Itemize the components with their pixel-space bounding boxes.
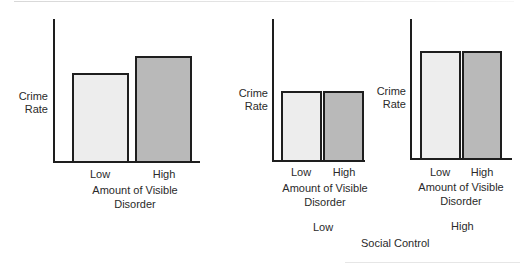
x-title-line2: Disorder (80, 197, 190, 211)
y-label-line2: Rate (8, 103, 48, 116)
bar-low (420, 51, 461, 158)
bottom-rule (345, 262, 520, 263)
y-axis-label: Crime Rate (228, 87, 268, 113)
y-label-line1: Crime (366, 85, 406, 98)
y-axis (272, 19, 274, 162)
x-axis (53, 161, 200, 163)
x-axis (410, 158, 512, 160)
y-label-line1: Crime (228, 87, 268, 100)
x-title-line1: Amount of Visible (270, 181, 380, 195)
bar-high (135, 56, 192, 161)
tick-low: Low (421, 166, 459, 179)
tick-high: High (325, 166, 363, 179)
y-axis (410, 19, 412, 160)
bar-low (72, 73, 129, 161)
tick-high: High (144, 168, 184, 181)
x-title-line1: Amount of Visible (80, 183, 190, 197)
bar-low (281, 91, 322, 160)
group-label-high: High (451, 220, 474, 233)
y-label-line1: Crime (8, 90, 48, 103)
tick-high: High (463, 166, 501, 179)
x-title-line2: Disorder (270, 195, 380, 209)
y-axis-label: Crime Rate (366, 85, 406, 111)
x-title-line2: Disorder (405, 194, 517, 208)
x-title-line1: Amount of Visible (405, 180, 517, 194)
bar-high (462, 51, 502, 158)
x-axis-title: Amount of Visible Disorder (80, 183, 190, 211)
group-label-low: Low (313, 221, 333, 234)
x-axis (272, 160, 365, 162)
bar-high (323, 91, 364, 160)
y-axis (53, 19, 55, 163)
y-axis-label: Crime Rate (8, 90, 48, 116)
group-title-social-control: Social Control (361, 237, 429, 250)
top-rule (14, 1, 514, 2)
y-label-line2: Rate (366, 98, 406, 111)
tick-low: Low (80, 168, 120, 181)
y-label-line2: Rate (228, 100, 268, 113)
x-axis-title: Amount of Visible Disorder (405, 180, 517, 208)
x-axis-title: Amount of Visible Disorder (270, 181, 380, 209)
tick-low: Low (283, 166, 319, 179)
